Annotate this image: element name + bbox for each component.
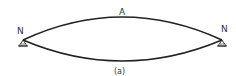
- top-arc: [23, 17, 222, 40]
- left-node-label: N: [17, 26, 24, 36]
- top-arc-label: A: [119, 7, 126, 17]
- caption: (a): [114, 67, 125, 76]
- bottom-arc: [23, 40, 222, 61]
- right-node-label: N: [221, 24, 228, 34]
- beam-diagram: N N A (a): [0, 0, 236, 76]
